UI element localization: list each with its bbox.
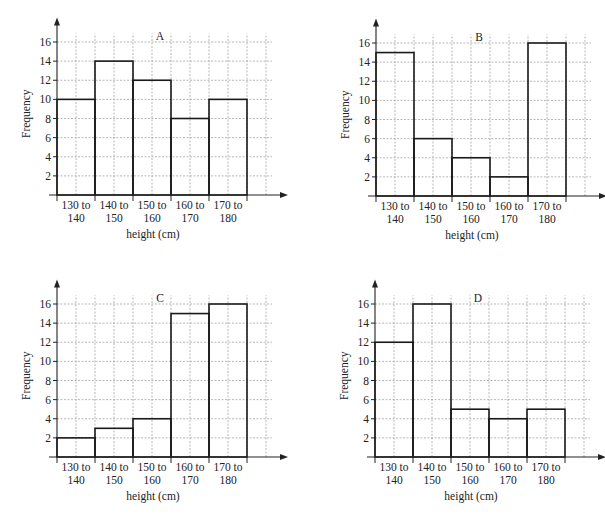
x-tick-label: 130 to (379, 461, 408, 473)
y-tick-label: 16 (358, 298, 370, 310)
x-tick-label: 160 (461, 474, 479, 486)
y-axis-label: Frequency (338, 351, 351, 400)
x-tick-label: 140 to (417, 461, 446, 473)
y-tick-label: 10 (358, 355, 370, 367)
y-tick-label: 14 (358, 317, 370, 329)
y-tick-label: 6 (363, 394, 369, 406)
y-axis-arrow-icon (372, 279, 378, 287)
x-axis-label: height (cm) (444, 490, 497, 503)
chart-title: D (474, 292, 482, 304)
y-tick-label: 4 (363, 413, 369, 425)
grid-lines (375, 295, 590, 457)
x-tick-label: 150 (423, 474, 441, 486)
axes: 246810121416130 to140140 to150150 to1601… (358, 279, 605, 486)
x-tick-label: 150 to (455, 461, 484, 473)
x-tick-label: 180 (537, 474, 555, 486)
x-tick-label: 170 to (531, 461, 560, 473)
x-axis-arrow-icon (598, 454, 605, 460)
y-tick-label: 12 (358, 336, 370, 348)
x-tick-label: 160 to (493, 461, 522, 473)
histogram-d: 246810121416130 to140140 to150150 to1601… (0, 0, 605, 516)
y-tick-label: 8 (363, 375, 369, 387)
y-tick-label: 2 (363, 432, 369, 444)
x-tick-label: 170 (499, 474, 517, 486)
x-tick-label: 140 (385, 474, 403, 486)
